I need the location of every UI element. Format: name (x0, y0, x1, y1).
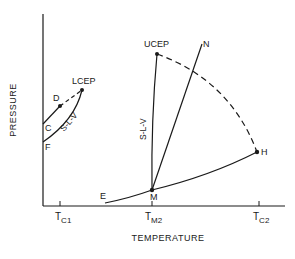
tick-label-tc1: TC1 (55, 211, 72, 225)
label-slv-right: S-L-V (138, 118, 148, 140)
label-d: D (53, 93, 60, 103)
point-d (58, 104, 62, 108)
label-ucep: UCEP (144, 39, 169, 49)
label-f: F (45, 142, 51, 152)
curve-m-h (152, 152, 257, 190)
label-e: E (100, 191, 106, 201)
line-m-n (152, 44, 202, 190)
label-m: M (150, 192, 158, 202)
x-axis-title: TEMPERATURE (132, 233, 205, 243)
curve-ucep-h-dashed (157, 54, 257, 152)
y-axis-title: PRESSURE (8, 83, 18, 137)
label-h: H (261, 147, 268, 157)
label-lcep: LCEP (72, 76, 96, 86)
curve-slv-right (152, 54, 157, 190)
point-lcep (80, 88, 84, 92)
label-slv-left: S-L-V (58, 110, 80, 133)
point-h (255, 150, 259, 154)
label-c: C (45, 123, 52, 133)
tick-label-tc2: TC2 (253, 211, 270, 225)
curve-d-lcep-dashed (60, 90, 82, 106)
label-n: N (203, 39, 210, 49)
curve-e-m (105, 190, 152, 203)
curve-c-d (43, 106, 60, 124)
phase-diagram: TC1 TM2 TC2 TEMPERATURE PRESSURE LCEP D … (0, 0, 295, 259)
tick-label-tm2: TM2 (145, 211, 163, 225)
point-ucep (155, 52, 159, 56)
